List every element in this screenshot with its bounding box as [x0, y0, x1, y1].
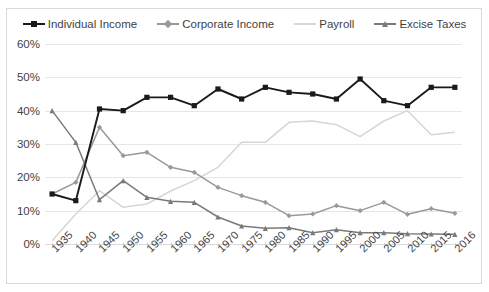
line-payroll	[52, 111, 455, 241]
chart-legend: Individual IncomeCorporate IncomePayroll…	[0, 14, 489, 34]
data-point	[121, 108, 126, 113]
data-point	[334, 96, 339, 101]
legend-label: Individual Income	[48, 18, 138, 30]
data-point	[381, 98, 386, 103]
data-point	[310, 91, 315, 96]
y-axis-tick-label: 60%	[2, 38, 40, 50]
data-point	[50, 108, 55, 113]
y-axis-tick-label: 50%	[2, 71, 40, 83]
line-excise-taxes	[52, 111, 455, 235]
data-point	[239, 96, 244, 101]
data-point	[310, 211, 315, 216]
plot-area	[45, 44, 462, 244]
data-point	[121, 178, 126, 183]
data-point	[358, 208, 363, 213]
data-point	[192, 103, 197, 108]
line-corporate-income	[52, 127, 455, 215]
y-axis-tick-label: 0%	[2, 238, 40, 250]
legend-swatch-icon	[157, 19, 179, 29]
legend-item-individual-income[interactable]: Individual Income	[23, 18, 138, 30]
y-axis-tick-label: 10%	[2, 205, 40, 217]
data-point	[381, 200, 386, 205]
legend-label: Excise Taxes	[399, 18, 466, 30]
line-individual-income	[52, 79, 455, 201]
y-axis-tick-label: 40%	[2, 105, 40, 117]
data-point	[263, 85, 268, 90]
data-point	[452, 85, 457, 90]
data-point	[429, 85, 434, 90]
data-point	[50, 191, 55, 196]
legend-item-payroll[interactable]: Payroll	[294, 18, 354, 30]
x-axis: 1935194019451950195519601965197019751980…	[45, 246, 462, 290]
data-point	[239, 193, 244, 198]
data-point	[73, 198, 78, 203]
legend-label: Payroll	[319, 18, 354, 30]
legend-item-excise-taxes[interactable]: Excise Taxes	[374, 18, 466, 30]
data-point	[73, 180, 78, 185]
data-point	[215, 86, 220, 91]
legend-swatch-icon	[374, 19, 396, 29]
data-point	[405, 212, 410, 217]
data-point	[286, 90, 291, 95]
legend-item-corporate-income[interactable]: Corporate Income	[157, 18, 274, 30]
data-point	[429, 206, 434, 211]
data-point	[144, 95, 149, 100]
legend-swatch-icon	[23, 19, 45, 29]
chart-container: Individual IncomeCorporate IncomePayroll…	[0, 0, 489, 292]
data-point	[452, 211, 457, 216]
legend-label: Corporate Income	[182, 18, 274, 30]
legend-swatch-icon	[294, 19, 316, 29]
y-axis: 0%10%20%30%40%50%60%	[0, 44, 40, 244]
data-point	[97, 106, 102, 111]
y-axis-tick-label: 20%	[2, 171, 40, 183]
data-point	[405, 103, 410, 108]
data-point	[358, 76, 363, 81]
series-lines	[45, 44, 462, 244]
data-point	[168, 95, 173, 100]
y-axis-tick-label: 30%	[2, 138, 40, 150]
data-point	[334, 203, 339, 208]
